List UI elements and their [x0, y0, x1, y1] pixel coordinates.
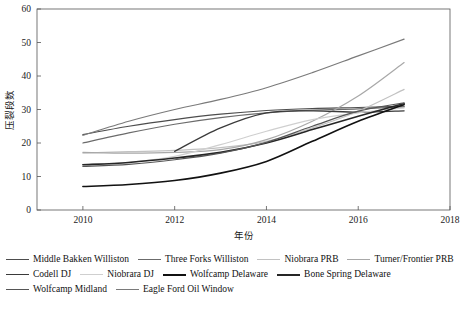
y-tick-label: 60 [22, 4, 32, 14]
y-axis-ticks: 0102030405060 [22, 4, 42, 215]
legend-label: Bone Spring Delaware [304, 269, 391, 280]
legend-label: Three Forks Williston [165, 254, 248, 265]
legend-label: Eagle Ford Oil Window [143, 284, 234, 295]
y-tick-label: 0 [26, 205, 31, 215]
legend-item[interactable]: Codell DJ [6, 269, 71, 280]
legend-color-swatch [347, 259, 370, 260]
legend-color-swatch [116, 289, 139, 290]
legend-item[interactable]: Three Forks Williston [138, 254, 248, 265]
legend-label: Wolfcamp Delaware [190, 269, 268, 280]
series-line [83, 39, 404, 135]
legend-label: Codell DJ [33, 269, 71, 280]
x-tick-label: 2010 [73, 215, 92, 225]
x-tick-label: 2018 [441, 215, 460, 225]
legend-label: Middle Bakken Williston [33, 254, 129, 265]
y-tick-label: 10 [22, 172, 32, 182]
legend-row-1: Middle Bakken WillistonThree Forks Willi… [6, 252, 454, 267]
legend-color-swatch [138, 259, 161, 260]
legend-row-2: Codell DJNiobrara DJWolfcamp DelawareBon… [6, 267, 454, 282]
x-tick-label: 2016 [349, 215, 368, 225]
series-lines-group [83, 39, 404, 186]
legend-label: Turner/Frontier PRB [374, 254, 453, 265]
legend-item[interactable]: Wolfcamp Delaware [163, 269, 268, 280]
legend-item[interactable]: Eagle Ford Oil Window [116, 284, 234, 295]
legend-color-swatch [277, 274, 300, 276]
series-line [83, 89, 404, 153]
legend-item[interactable]: Wolfcamp Midland [6, 284, 107, 295]
legend-item[interactable]: Niobrara DJ [80, 269, 154, 280]
chart-legend: Middle Bakken WillistonThree Forks Willi… [0, 252, 460, 297]
legend-color-swatch [80, 274, 103, 275]
legend-color-swatch [6, 259, 29, 260]
x-tick-label: 2014 [257, 215, 276, 225]
x-tick-label: 2012 [165, 215, 184, 225]
legend-row-3: Wolfcamp MidlandEagle Ford Oil Window [6, 282, 454, 297]
chart-page: 0102030405060 20102012201420162018 年份 压裂… [0, 0, 460, 318]
x-axis-ticks: 20102012201420162018 [73, 206, 459, 225]
chart-plot-area: 0102030405060 20102012201420162018 年份 压裂… [0, 0, 460, 250]
y-tick-label: 30 [22, 105, 32, 115]
legend-item[interactable]: Middle Bakken Williston [6, 254, 129, 265]
x-axis-title: 年份 [234, 230, 254, 241]
legend-color-swatch [163, 274, 186, 276]
y-tick-label: 50 [22, 38, 32, 48]
legend-label: Niobrara DJ [107, 269, 154, 280]
legend-color-swatch [257, 259, 280, 260]
legend-item[interactable]: Niobrara PRB [257, 254, 338, 265]
legend-label: Niobrara PRB [284, 254, 338, 265]
legend-item[interactable]: Turner/Frontier PRB [347, 254, 453, 265]
legend-color-swatch [6, 274, 29, 275]
y-axis-title: 压裂段数 [4, 90, 15, 130]
line-chart-svg: 0102030405060 20102012201420162018 年份 压裂… [0, 0, 460, 250]
legend-color-swatch [6, 289, 29, 290]
y-tick-label: 40 [22, 71, 32, 81]
legend-item[interactable]: Bone Spring Delaware [277, 269, 391, 280]
legend-label: Wolfcamp Midland [33, 284, 107, 295]
y-tick-label: 20 [22, 138, 32, 148]
